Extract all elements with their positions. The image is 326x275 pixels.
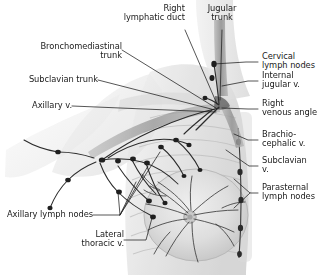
label-internal-jugular-v: Internal jugular v. <box>262 71 326 90</box>
label-right-lymphatic-duct: Right lymphatic duct <box>108 4 185 23</box>
label-right-venous-angle: Right venous angle <box>262 99 326 118</box>
label-subclavian-v: Subclavian v. <box>262 156 326 175</box>
label-lateral-thoracic-v: Lateral thoracic v. <box>62 230 124 249</box>
label-subclavian-trunk: Subclavian trunk <box>16 75 98 84</box>
label-jugular-trunk: Jugular trunk <box>196 4 248 23</box>
label-bronchomediastinal-trunk: Bronchomediastinal trunk <box>16 42 122 61</box>
label-axillary-v: Axillary v. <box>12 101 72 110</box>
label-parasternal-lymph-nodes: Parasternal lymph nodes <box>262 183 326 202</box>
label-cervical-lymph-nodes: Cervical lymph nodes <box>262 52 326 71</box>
label-axillary-lymph-nodes: Axillary lymph nodes <box>5 210 93 219</box>
label-brachiocephalic-v: Brachio- cephalic v. <box>262 130 326 149</box>
